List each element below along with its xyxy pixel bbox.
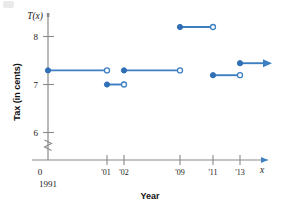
x-tick-label-11: '11 [208, 168, 217, 177]
step-segment-6-closed-endpoint [237, 61, 242, 66]
step-segment-3-open-endpoint [178, 68, 183, 73]
step-segment-1-open-endpoint [105, 68, 110, 73]
y-tick-label-7: 7 [34, 80, 39, 90]
axes-group [32, 13, 268, 163]
tax-step-function-figure: 8 7 6 T(x) x '01 '02 '09 '11 '13 0 1991 … [0, 0, 281, 204]
step-segment-2-open-endpoint [122, 82, 127, 87]
step-function-chart: 8 7 6 T(x) x '01 '02 '09 '11 '13 0 1991 … [0, 0, 281, 204]
scan-artifact [3, 1, 14, 8]
step-segment-6-arrowhead [263, 59, 272, 67]
y-axis-function-label: T(x) [27, 11, 43, 22]
y-axis-break-icon [45, 140, 52, 151]
y-axis-top-marker [47, 13, 50, 17]
origin-year-label: 1991 [39, 179, 57, 189]
step-segment-5 [210, 73, 242, 78]
x-tick-label-02: '02 [119, 168, 128, 177]
step-segment-3 [121, 68, 182, 73]
step-segment-4-closed-endpoint [177, 24, 182, 29]
x-axis-title: Year [140, 191, 160, 201]
x-tick-label-09: '09 [175, 168, 184, 177]
x-axis-variable-label: x [259, 165, 265, 175]
origin-zero-label: 0 [38, 167, 43, 177]
step-segment-4 [177, 24, 215, 29]
step-segment-4-open-endpoint [211, 25, 216, 30]
step-segment-2 [104, 82, 126, 87]
x-tick-label-13: '13 [235, 168, 244, 177]
step-segment-6 [237, 59, 272, 67]
step-segment-5-closed-endpoint [210, 73, 215, 78]
step-segment-1 [45, 68, 109, 73]
y-axis-title: Tax (in cents) [12, 63, 22, 120]
y-tick-label-6: 6 [34, 128, 39, 138]
step-segment-3-closed-endpoint [121, 68, 126, 73]
x-axis-arrowhead [261, 157, 268, 163]
step-segment-1-closed-endpoint [45, 68, 50, 73]
step-segment-5-open-endpoint [238, 73, 243, 78]
x-tick-label-01: '01 [101, 168, 110, 177]
y-tick-label-8: 8 [34, 32, 39, 42]
step-segment-2-closed-endpoint [104, 82, 109, 87]
